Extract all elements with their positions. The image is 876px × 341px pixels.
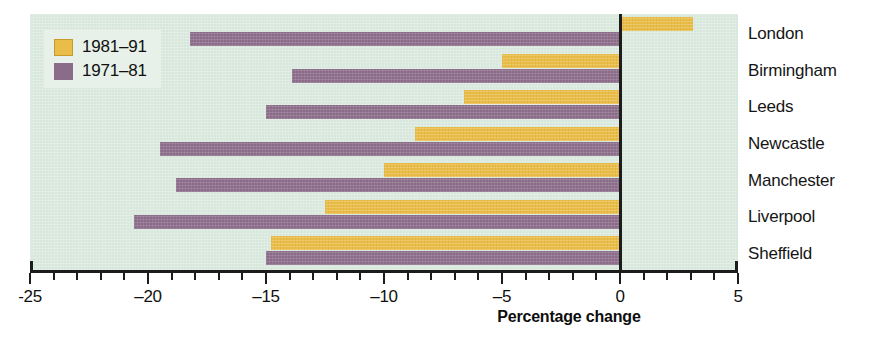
zero-axis-line <box>619 14 622 270</box>
legend-label-1971-81: 1971–81 <box>82 61 147 81</box>
minor-tick <box>643 273 645 280</box>
minor-tick <box>572 273 574 280</box>
category-label-manchester: Manchester <box>748 172 835 189</box>
minor-tick <box>336 273 338 280</box>
bar-newcastle-1981-91 <box>415 127 620 141</box>
bar-group-liverpool <box>30 197 738 234</box>
bar-sheffield-1971-81 <box>266 251 620 265</box>
bar-group-manchester <box>30 160 738 197</box>
minor-tick <box>477 273 479 280</box>
minor-tick <box>690 273 692 280</box>
tick-label-5: 5 <box>733 287 742 307</box>
bar-manchester-1981-91 <box>384 163 620 177</box>
legend-label-1981-91: 1981–91 <box>82 37 147 57</box>
minor-tick <box>100 273 102 280</box>
legend-swatch-1971-icon <box>54 63 73 80</box>
category-label-liverpool: Liverpool <box>748 208 815 225</box>
minor-tick <box>525 273 527 280</box>
minor-tick <box>241 273 243 280</box>
minor-tick <box>123 273 125 280</box>
plot-area: 1981–91 1971–81 <box>30 14 738 270</box>
minor-tick <box>194 273 196 280</box>
minor-tick <box>666 273 668 280</box>
minor-tick <box>430 273 432 280</box>
bar-birmingham-1971-81 <box>292 69 620 83</box>
axis-cap-right <box>735 261 738 271</box>
bar-manchester-1971-81 <box>176 178 620 192</box>
minor-tick <box>76 273 78 280</box>
bar-chart-figure: 1981–91 1971–81 LondonBirminghamLeedsNew… <box>0 0 876 341</box>
bar-newcastle-1971-81 <box>160 142 620 156</box>
axis-cap-left <box>30 261 33 271</box>
minor-tick <box>289 273 291 280</box>
minor-tick <box>407 273 409 280</box>
bar-london-1981-91 <box>620 17 693 31</box>
bar-group-newcastle <box>30 124 738 161</box>
tick-label-neg20: –20 <box>134 287 161 307</box>
legend-swatch-1981-icon <box>54 39 73 56</box>
minor-tick <box>53 273 55 280</box>
category-label-birmingham: Birmingham <box>748 62 837 79</box>
minor-tick <box>218 273 220 280</box>
bar-london-1971-81 <box>190 32 620 46</box>
minor-tick <box>312 273 314 280</box>
category-label-leeds: Leeds <box>748 98 793 115</box>
legend-item-1971-81: 1971–81 <box>54 61 147 81</box>
bar-liverpool-1971-81 <box>134 215 620 229</box>
bar-sheffield-1981-91 <box>271 236 620 250</box>
minor-tick <box>359 273 361 280</box>
minor-tick <box>548 273 550 280</box>
category-label-sheffield: Sheffield <box>748 245 812 262</box>
bar-group-leeds <box>30 87 738 124</box>
major-tick <box>147 273 149 284</box>
bar-birmingham-1981-91 <box>502 54 620 68</box>
category-label-newcastle: Newcastle <box>748 135 825 152</box>
tick-label-0: 0 <box>615 287 624 307</box>
minor-tick <box>595 273 597 280</box>
minor-tick <box>171 273 173 280</box>
major-tick <box>501 273 503 284</box>
bar-leeds-1971-81 <box>266 105 620 119</box>
bar-leeds-1981-91 <box>464 90 620 104</box>
tick-label-neg10: –10 <box>370 287 397 307</box>
major-tick <box>737 273 739 284</box>
x-axis <box>30 270 738 273</box>
major-tick <box>619 273 621 284</box>
tick-label-neg15: –15 <box>252 287 279 307</box>
tick-label-neg25: -25 <box>18 287 42 307</box>
major-tick <box>383 273 385 284</box>
legend-item-1981-91: 1981–91 <box>54 37 147 57</box>
chart-legend: 1981–91 1971–81 <box>44 30 161 88</box>
tick-label-neg5: –5 <box>493 287 511 307</box>
minor-tick <box>713 273 715 280</box>
category-labels: LondonBirminghamLeedsNewcastleManchester… <box>748 14 876 270</box>
bar-liverpool-1981-91 <box>325 200 620 214</box>
minor-tick <box>454 273 456 280</box>
bar-group-sheffield <box>30 233 738 270</box>
major-tick <box>265 273 267 284</box>
major-tick <box>29 273 31 284</box>
category-label-london: London <box>748 25 804 42</box>
x-axis-title: Percentage change <box>497 308 640 326</box>
